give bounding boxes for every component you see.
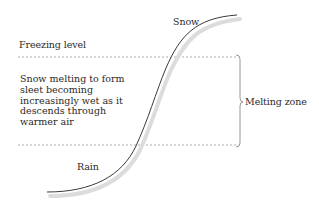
melting-description: Snow melting to form sleet becoming incr… xyxy=(20,74,140,128)
snow-label: Snow xyxy=(173,16,199,27)
melting-zone-diagram: Snow Freezing level Snow melting to form… xyxy=(0,0,319,208)
melting-zone-label: Melting zone xyxy=(245,96,307,107)
rain-label: Rain xyxy=(77,161,99,172)
description-line: warmer air xyxy=(20,117,140,128)
melting-zone-bracket xyxy=(236,55,243,147)
freezing-level-label: Freezing level xyxy=(19,39,86,50)
description-line: sleet becoming xyxy=(20,85,140,96)
